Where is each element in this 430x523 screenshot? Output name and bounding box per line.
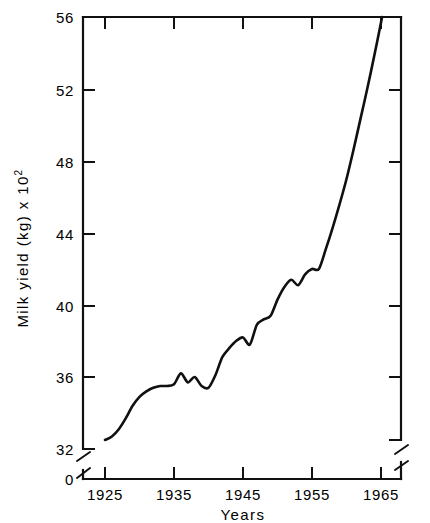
y-tick-label-52: 52	[56, 82, 74, 99]
x-tick-label-1945: 1945	[225, 486, 261, 503]
chart-figure: 56 52 48 44 40 36 32 0 1925 1935 1945 19…	[0, 0, 430, 523]
x-axis-ticks	[105, 467, 381, 479]
y-tick-label-56: 56	[56, 9, 74, 26]
x-tick-label-1955: 1955	[294, 486, 330, 503]
y-tick-label-48: 48	[56, 154, 74, 171]
y-tick-label-36: 36	[56, 369, 74, 386]
x-tick-label-1965: 1965	[363, 486, 399, 503]
y-axis-ticks	[83, 90, 95, 449]
data-series-line	[105, 17, 382, 440]
svg-text:Milk yield (kg) x 102: Milk yield (kg) x 102	[13, 168, 31, 327]
y-axis-break-marker-right	[395, 445, 408, 470]
y-axis-origin-label: 0	[65, 471, 74, 488]
y-axis-title-text: Milk yield (kg) x 10	[14, 175, 31, 327]
y-axis-title-exponent: 2	[13, 168, 24, 175]
x-tick-label-1935: 1935	[156, 486, 192, 503]
y-axis-title: Milk yield (kg) x 102	[13, 168, 31, 327]
x-axis-title: Years	[221, 506, 266, 523]
x-axis-ticks-top	[105, 17, 381, 29]
milk-yield-line-chart: 56 52 48 44 40 36 32 0 1925 1935 1945 19…	[0, 0, 430, 523]
y-axis-break-marker-left	[77, 452, 90, 478]
y-tick-label-32: 32	[56, 441, 74, 458]
y-tick-label-44: 44	[56, 226, 74, 243]
x-tick-label-1925: 1925	[87, 486, 123, 503]
y-tick-label-40: 40	[56, 298, 74, 315]
y-axis-ticks-right	[389, 90, 401, 440]
